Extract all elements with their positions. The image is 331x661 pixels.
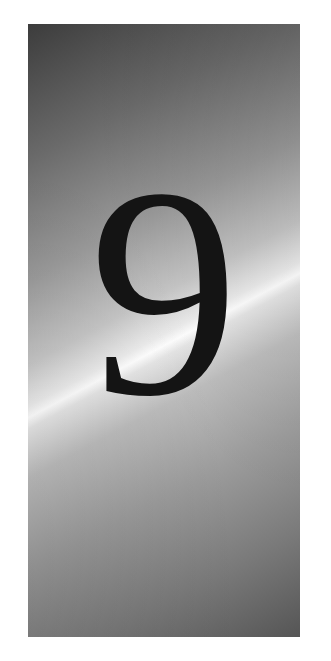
gradient-card: 9 <box>28 24 300 637</box>
number-nine: 9 <box>28 142 300 442</box>
